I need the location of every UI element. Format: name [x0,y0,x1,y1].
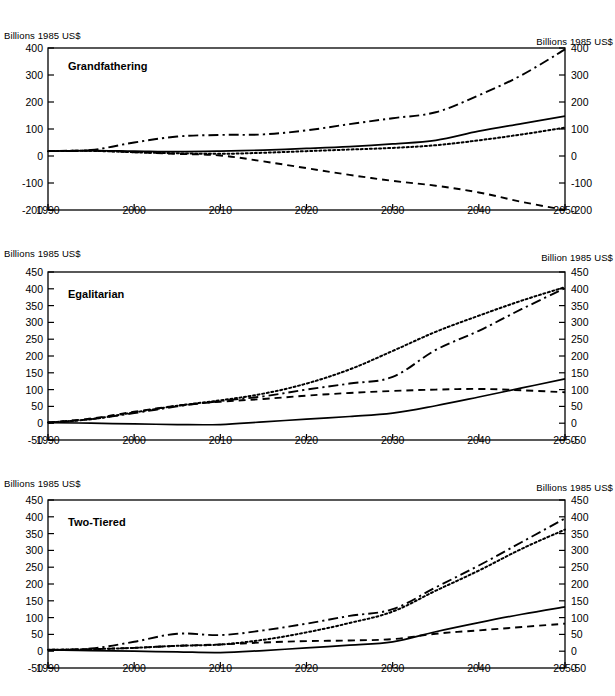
y-tick-label-right: 100 [571,384,589,396]
y-tick-label-right: -200 [571,204,592,216]
data-line-dashed [48,389,565,423]
y-tick-label-left: -50 [28,434,43,446]
x-tick-label: 2000 [122,204,146,216]
data-line-dashed [48,151,565,210]
y-tick-label-right: 0 [571,417,577,429]
y-tick-label-right: 0 [571,150,577,162]
data-line-solid [48,379,565,425]
x-tick-label: 2030 [381,204,405,216]
right-axis-title: Billions 1985 US$ [536,482,613,493]
y-tick-label-left: 250 [25,561,43,573]
x-tick-label: 1990 [36,434,60,446]
x-tick-label: 2010 [209,434,233,446]
y-tick-label-right: -100 [571,177,592,189]
data-line-dashdot [48,518,565,649]
x-tick-label: 2040 [467,662,491,674]
x-tick-label: 1990 [36,204,60,216]
y-tick-label-left: -50 [28,662,43,674]
y-tick-label-left: 0 [37,417,43,429]
y-tick-label-right: 250 [571,561,589,573]
x-tick-label: 2050 [553,434,577,446]
x-tick-label: 2020 [295,204,319,216]
data-line-dotted [48,530,565,650]
y-tick-label-right: 150 [571,595,589,607]
x-tick-label: 2000 [122,662,146,674]
data-line-dashed [48,624,565,650]
data-line-dashdot [48,288,565,422]
y-tick-label-left: 250 [25,333,43,345]
y-tick-label-left: 300 [25,316,43,328]
x-tick-label: 2040 [467,434,491,446]
y-tick-label-left: 350 [25,300,43,312]
x-tick-label: 2050 [553,204,577,216]
y-tick-label-left: 200 [25,96,43,108]
y-tick-label-right: 50 [571,400,583,412]
y-tick-label-right: 200 [571,96,589,108]
x-tick-label: 1990 [36,662,60,674]
right-axis-title: Billions 1985 US$ [536,36,613,47]
y-tick-label-left: 100 [25,123,43,135]
x-tick-label: 2010 [209,662,233,674]
y-tick-label-left: 150 [25,595,43,607]
y-tick-label-right: 150 [571,367,589,379]
x-tick-label: 2020 [295,662,319,674]
chart-title: Two-Tiered [68,516,126,528]
y-tick-label-right: 0 [571,645,577,657]
y-tick-label-right: 300 [571,316,589,328]
y-tick-label-left: 300 [25,69,43,81]
y-tick-label-right: 450 [571,266,589,278]
y-tick-label-left: 400 [25,511,43,523]
y-tick-label-left: 100 [25,612,43,624]
left-axis-title: Billions 1985 US$ [4,248,81,259]
left-axis-title: Billions 1985 US$ [4,30,81,41]
plot-area-2: -50-500050501001001501502002002502503003… [0,0,615,696]
y-tick-label-right: 350 [571,300,589,312]
x-tick-label: 2050 [553,662,577,674]
y-tick-label-left: -100 [22,177,43,189]
y-tick-label-right: 100 [571,612,589,624]
y-tick-label-left: 100 [25,384,43,396]
x-tick-label: 2030 [381,662,405,674]
y-tick-label-left: 400 [25,283,43,295]
y-tick-label-right: 100 [571,123,589,135]
y-tick-label-right: -50 [571,434,586,446]
y-tick-label-left: 200 [25,350,43,362]
y-tick-label-right: 400 [571,283,589,295]
y-tick-label-right: 450 [571,494,589,506]
y-tick-label-left: 350 [25,528,43,540]
y-tick-label-left: 450 [25,266,43,278]
y-tick-label-left: 0 [37,645,43,657]
y-tick-label-right: 300 [571,544,589,556]
y-tick-label-left: 50 [31,400,43,412]
plot-area-1: -200-200-100-100001001002002003003004004… [0,0,615,696]
x-tick-label: 2000 [122,434,146,446]
y-tick-label-left: -200 [22,204,43,216]
y-tick-label-right: 250 [571,333,589,345]
data-line-dashdot [48,49,565,151]
y-tick-label-right: 200 [571,350,589,362]
x-tick-label: 2020 [295,434,319,446]
y-tick-label-left: 150 [25,367,43,379]
right-axis-title: Billion 1985 US$ [541,252,613,263]
x-tick-label: 2040 [467,204,491,216]
y-tick-label-left: 200 [25,578,43,590]
y-tick-label-left: 300 [25,544,43,556]
y-tick-label-right: 200 [571,578,589,590]
y-tick-label-right: -50 [571,662,586,674]
chart-title: Grandfathering [68,60,147,72]
y-tick-label-left: 50 [31,628,43,640]
chart-title: Egalitarian [68,288,125,300]
plot-area-3: -50-500050501001001501502002002502503003… [0,0,615,696]
y-tick-label-right: 50 [571,628,583,640]
figure-multi-panel-line-charts: Billions 1985 US$Billions 1985 US$-200-2… [0,0,615,696]
y-tick-label-right: 350 [571,528,589,540]
y-tick-label-left: 400 [25,42,43,54]
y-tick-label-right: 400 [571,511,589,523]
left-axis-title: Billions 1985 US$ [4,478,81,489]
y-tick-label-left: 0 [37,150,43,162]
data-line-dotted [48,128,565,154]
data-line-dotted [48,287,565,422]
y-tick-label-left: 450 [25,494,43,506]
y-tick-label-right: 300 [571,69,589,81]
data-line-solid [48,607,565,653]
